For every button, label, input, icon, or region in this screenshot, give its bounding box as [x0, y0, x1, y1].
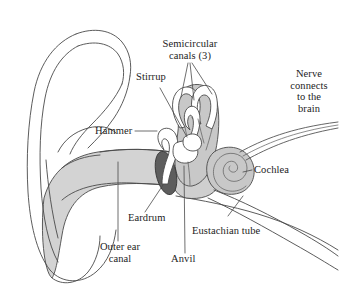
label-anvil: Anvil: [171, 253, 195, 265]
label-hammer: Hammer: [95, 125, 132, 137]
label-outer-ear-canal: Outer ear canal: [92, 241, 148, 264]
label-nerve-connects-to-brain: Nerve connects to the brain: [284, 68, 334, 114]
ear-anatomy-diagram: Semicircular canals (3) Stirrup Hammer N…: [0, 0, 340, 288]
label-eustachian-tube: Eustachian tube: [192, 225, 260, 237]
pinna-helix-top: [76, 30, 131, 76]
label-cochlea: Cochlea: [254, 164, 289, 176]
pinna-antihelix-fold: [70, 84, 122, 154]
auditory-nerve-lower: [246, 128, 338, 160]
auditory-nerve-upper: [240, 122, 338, 152]
eustachian-tube-upper-wall: [214, 190, 338, 256]
pinna-concha-ridge: [88, 76, 130, 148]
label-eardrum: Eardrum: [128, 212, 165, 224]
stirrup-bone: [183, 134, 202, 151]
pinna-antihelix-upper: [78, 43, 124, 84]
label-semicircular-canals: Semicircular canals (3): [155, 38, 225, 61]
label-stirrup: Stirrup: [136, 71, 166, 83]
leader-eardrum: [145, 185, 163, 212]
